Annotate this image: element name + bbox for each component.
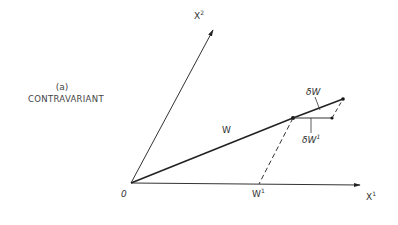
- panel-label: (a): [56, 82, 69, 92]
- dw-vector: [293, 99, 343, 118]
- w1-label: W1: [252, 187, 265, 199]
- contravariant-diagram: (a) CONTRAVARIANT X2 X1 0 W δW δW1 W1: [0, 0, 398, 225]
- origin-label: 0: [121, 189, 127, 199]
- w-label: W: [222, 125, 231, 135]
- x2-axis: [131, 30, 213, 183]
- dw-label: δW: [306, 87, 322, 97]
- x1-axis: [131, 183, 360, 185]
- x2-axis-label: X2: [194, 9, 204, 21]
- w-vector: [131, 118, 293, 183]
- w1-projection-dashed: [259, 118, 293, 184]
- caption-title: CONTRAVARIANT: [28, 94, 104, 104]
- dw1-label: δW1: [302, 133, 320, 145]
- x1-axis-label: X1: [366, 190, 376, 202]
